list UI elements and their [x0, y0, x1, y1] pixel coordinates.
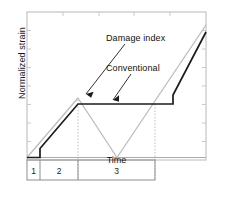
y-axis-label: Normalized strain [17, 3, 27, 123]
zone-label-3: 3 [78, 166, 155, 176]
top-axis-ticks [63, 12, 170, 16]
annotation-damage-index: Damage index [106, 33, 165, 43]
zone-label-2: 2 [40, 166, 78, 176]
y-axis-ticks [27, 31, 31, 142]
annotation-conventional: Conventional [106, 63, 160, 73]
x-axis-label: Time [78, 155, 155, 165]
chart-figure: Normalized strain Damage index Conventio… [0, 0, 241, 199]
series-conventional [27, 25, 206, 158]
right-axis-ticks [202, 31, 206, 142]
zone-label-1: 1 [27, 166, 40, 176]
